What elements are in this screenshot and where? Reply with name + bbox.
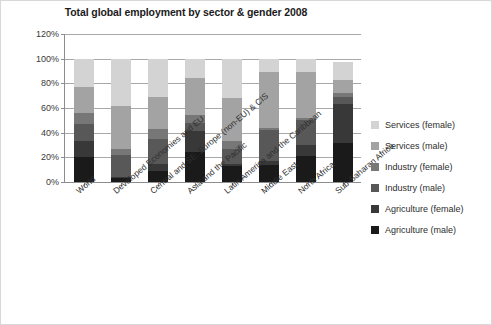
x-axis-category-label: World [74, 174, 97, 196]
legend-swatch-icon [371, 121, 379, 129]
legend-label: Agriculture (male) [385, 225, 456, 235]
legend-swatch-icon [371, 163, 379, 171]
legend-label: Agriculture (female) [385, 204, 464, 214]
legend-label: Industry (female) [385, 162, 453, 172]
legend-item[interactable]: Services (male) [371, 135, 491, 156]
legend-item[interactable]: Industry (male) [371, 177, 491, 198]
x-axis-category-label: North Africa [296, 159, 336, 195]
legend-item[interactable]: Agriculture (female) [371, 198, 491, 219]
legend-swatch-icon [371, 184, 379, 192]
legend-label: Services (male) [385, 141, 448, 151]
legend-item[interactable]: Services (female) [371, 114, 491, 135]
legend-label: Services (female) [385, 120, 455, 130]
legend-swatch-icon [371, 226, 379, 234]
legend-item[interactable]: Industry (female) [371, 156, 491, 177]
legend-label: Industry (male) [385, 183, 445, 193]
legend-swatch-icon [371, 205, 379, 213]
chart-frame: Total global employment by sector & gend… [0, 0, 492, 325]
legend-item[interactable]: Agriculture (male) [371, 219, 491, 240]
chart-legend: Services (female)Services (male)Industry… [371, 114, 491, 240]
legend-swatch-icon [371, 142, 379, 150]
